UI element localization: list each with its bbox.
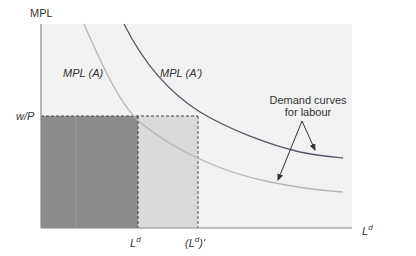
ldp-close: )' — [199, 237, 205, 249]
curve-a-prime-label: MPL (A') — [160, 67, 202, 79]
y-axis-label: MPL — [30, 7, 53, 19]
wage-bill-light-region — [138, 116, 198, 228]
ldprime-tick-label: (Ld)' — [185, 234, 205, 249]
ld-sup: d — [136, 235, 140, 244]
demand-curves-label: Demand curves for labour — [262, 94, 354, 118]
wage-bill-dark-region — [41, 116, 138, 228]
x-axis-sup: d — [368, 223, 372, 232]
x-axis-label: Ld — [362, 222, 373, 237]
demand-label-line2: for labour — [262, 106, 354, 118]
ld-tick-label: Ld — [130, 234, 141, 249]
wage-label: w/P — [16, 110, 34, 122]
labour-demand-chart — [0, 0, 416, 256]
demand-label-line1: Demand curves — [262, 94, 354, 106]
ldp-open: (L — [185, 237, 195, 249]
curve-a-label: MPL (A) — [63, 67, 103, 79]
